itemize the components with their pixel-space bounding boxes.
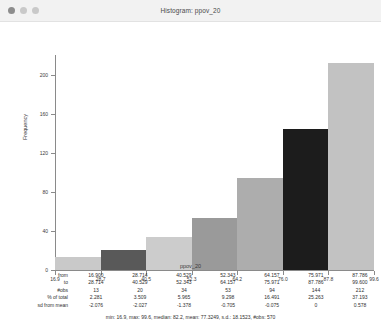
table-cell: 3.509 [118,294,162,301]
table-row: sd from mean-2.076-2.027-1.378-0.705-0.0… [0,302,381,309]
table-cell: 28.714 [118,272,162,279]
histogram-bar [328,63,374,270]
bar-series [55,55,374,270]
table-row-label: #obs [0,287,74,294]
table-cell: 87.786 [294,279,338,286]
table-cell: -2.076 [74,302,118,309]
x-axis-label: ppov_20 [0,263,381,269]
x-axis-line [55,270,374,271]
histogram-bar [283,129,329,270]
table-cell: 99.600 [338,279,381,286]
y-axis-label: Frequency [22,114,28,140]
y-tick-label: 160 [22,111,48,117]
table-cell: 16.900 [74,272,118,279]
table-row: from16.90028.71440.52952.34364.15775.971… [0,272,381,279]
table-cell: 13 [74,287,118,294]
y-tick-mark [51,231,55,232]
table-cell: 64.157 [250,272,294,279]
table-cell: 64.157 [206,279,250,286]
table-cell: 9.298 [206,294,250,301]
y-tick-label: 40 [22,228,48,234]
table-cell: 144 [294,287,338,294]
table-cell: 2.281 [74,294,118,301]
y-tick-mark [51,75,55,76]
summary-statistics: min: 16.9, max: 99.6, median: 82.2, mean… [0,314,381,320]
table-cell: 212 [338,287,381,294]
table-cell: 5.965 [162,294,206,301]
y-tick-label: 200 [22,72,48,78]
table-row: % of total2.2813.5095.9659.29816.49125.2… [0,294,381,301]
table-cell: 40.529 [118,279,162,286]
window-title: Histogram: ppov_20 [0,0,381,21]
table-cell: 40.529 [162,272,206,279]
y-tick-mark [51,153,55,154]
table-row-label: sd from mean [0,302,74,309]
table-cell: 34 [162,287,206,294]
table-row-label: to [0,279,74,286]
window-titlebar[interactable]: Histogram: ppov_20 [0,0,381,22]
table-cell: 52.343 [206,272,250,279]
table-cell: 16.491 [250,294,294,301]
table-row-label: from [0,272,74,279]
table-cell: 94 [250,287,294,294]
table-cell: -0.075 [250,302,294,309]
table-row: #obs1320345394144212 [0,287,381,294]
bin-statistics-table: from16.90028.71440.52952.34364.15775.971… [0,272,381,309]
histogram-bar [237,178,283,270]
histogram-window: Histogram: ppov_20 Frequency 04080120160… [0,0,381,331]
table-cell: 75.971 [250,279,294,286]
table-cell: 75.971 [294,272,338,279]
table-cell: 53 [206,287,250,294]
y-tick-label: 80 [22,189,48,195]
y-tick-mark [51,192,55,193]
y-tick-mark [51,114,55,115]
table-cell: 0 [294,302,338,309]
table-cell: 20 [118,287,162,294]
y-tick-label: 120 [22,150,48,156]
table-cell: -1.378 [162,302,206,309]
table-cell: 52.343 [162,279,206,286]
table-row: to28.71440.52952.34364.15775.97187.78699… [0,279,381,286]
table-cell: -2.027 [118,302,162,309]
histogram-plot: Frequency 04080120160200 16.928.740.552.… [0,22,381,272]
table-cell: -0.705 [206,302,250,309]
table-cell: 0.578 [338,302,381,309]
table-cell: 25.263 [294,294,338,301]
table-cell: 37.193 [338,294,381,301]
table-cell: 87.786 [338,272,381,279]
table-row-label: % of total [0,294,74,301]
table-cell: 28.714 [74,279,118,286]
